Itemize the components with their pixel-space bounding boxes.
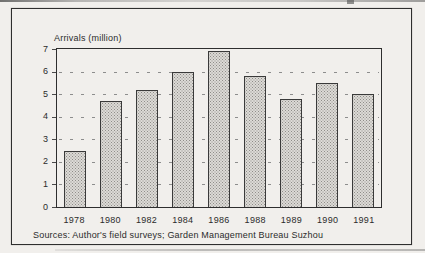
- x-tick-label-1984: 1984: [165, 215, 201, 227]
- x-tick-label-1986: 1986: [201, 215, 237, 227]
- plot-area: [56, 48, 382, 208]
- source-note: Sources: Author's field surveys; Garden …: [33, 230, 323, 240]
- y-tick-mark-3: [52, 139, 56, 140]
- x-tick-label-1991: 1991: [346, 215, 382, 227]
- x-tick-label-1988: 1988: [237, 215, 273, 227]
- bar-1986: [208, 51, 230, 207]
- bar-1991: [352, 94, 374, 207]
- y-tick-mark-4: [52, 117, 56, 118]
- bar-1978: [64, 151, 86, 207]
- y-tick-label-6: 6: [26, 66, 48, 77]
- bar-1989: [280, 99, 302, 207]
- y-tick-label-7: 7: [26, 44, 48, 55]
- y-tick-mark-0: [52, 207, 56, 208]
- y-tick-mark-5: [52, 94, 56, 95]
- x-tick-label-1990: 1990: [310, 215, 346, 227]
- bar-1988: [244, 76, 266, 207]
- y-tick-label-2: 2: [26, 156, 48, 167]
- y-tick-mark-7: [52, 49, 56, 50]
- scan-artifact-top-streak: [0, 0, 425, 2]
- x-tick-label-1980: 1980: [92, 215, 128, 227]
- bar-1990: [316, 83, 338, 207]
- chart-axis-title: Arrivals (million): [54, 33, 122, 43]
- y-tick-label-3: 3: [26, 134, 48, 145]
- x-tick-label-1982: 1982: [128, 215, 164, 227]
- y-tick-label-0: 0: [26, 202, 48, 213]
- y-tick-label-4: 4: [26, 111, 48, 122]
- y-tick-mark-2: [52, 162, 56, 163]
- y-tick-mark-1: [52, 184, 56, 185]
- scan-artifact-top-mark: [347, 0, 354, 4]
- x-axis-labels: 197819801982198419861988198919901991: [56, 215, 382, 227]
- x-tick-label-1978: 1978: [56, 215, 92, 227]
- y-tick-label-1: 1: [26, 179, 48, 190]
- x-tick-label-1989: 1989: [273, 215, 309, 227]
- bar-1982: [136, 90, 158, 207]
- bar-1984: [172, 72, 194, 207]
- bar-1980: [100, 101, 122, 207]
- scan-artifact-bottom-smudge: [55, 249, 425, 251]
- y-tick-label-5: 5: [26, 89, 48, 100]
- y-tick-mark-6: [52, 72, 56, 73]
